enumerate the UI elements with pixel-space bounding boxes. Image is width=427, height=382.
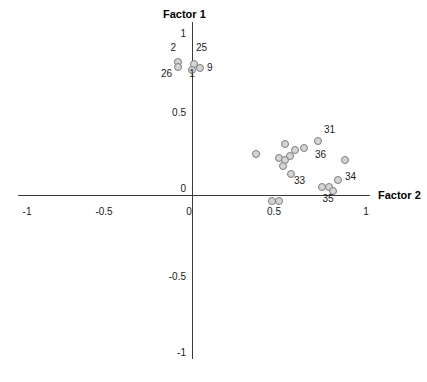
data-point-label: 1 — [189, 68, 195, 79]
y-tick-label: 1 — [180, 28, 186, 39]
data-point-label: 26 — [161, 68, 172, 79]
x-tick-label: 1 — [363, 206, 369, 217]
data-point — [314, 137, 322, 145]
data-point — [174, 63, 182, 71]
scatter-plot-figure: Factor 1 Factor 2 -1-0.500.51 10.50-0.5-… — [0, 0, 427, 382]
data-point — [341, 156, 349, 164]
y-tick-label: -0.5 — [169, 271, 186, 282]
y-axis-title: Factor 1 — [163, 8, 206, 20]
x-tick-label: 0 — [186, 206, 192, 217]
x-tick-label: -0.5 — [95, 206, 112, 217]
data-point — [281, 140, 289, 148]
data-point-label: 2 — [170, 42, 176, 53]
data-point — [300, 144, 308, 152]
x-axis-title: Factor 2 — [378, 189, 421, 201]
data-point — [196, 64, 204, 72]
data-point — [291, 146, 299, 154]
x-tick-label: 0.5 — [267, 206, 281, 217]
y-tick-label: 0.5 — [172, 107, 186, 118]
data-point — [279, 162, 287, 170]
data-point — [252, 150, 260, 158]
x-axis-line — [18, 195, 370, 196]
data-point-label: 25 — [196, 42, 207, 53]
data-point-label: 35 — [322, 193, 333, 204]
y-tick-label: 0 — [180, 183, 186, 194]
x-tick-label: -1 — [23, 206, 32, 217]
data-point-label: 31 — [324, 124, 335, 135]
data-point — [334, 176, 342, 184]
data-point-label: 33 — [294, 175, 305, 186]
y-tick-label: -1 — [177, 347, 186, 358]
data-point-label: 34 — [345, 171, 356, 182]
data-point — [275, 197, 283, 205]
data-point-label: 36 — [315, 149, 326, 160]
data-point-label: 9 — [207, 62, 213, 73]
